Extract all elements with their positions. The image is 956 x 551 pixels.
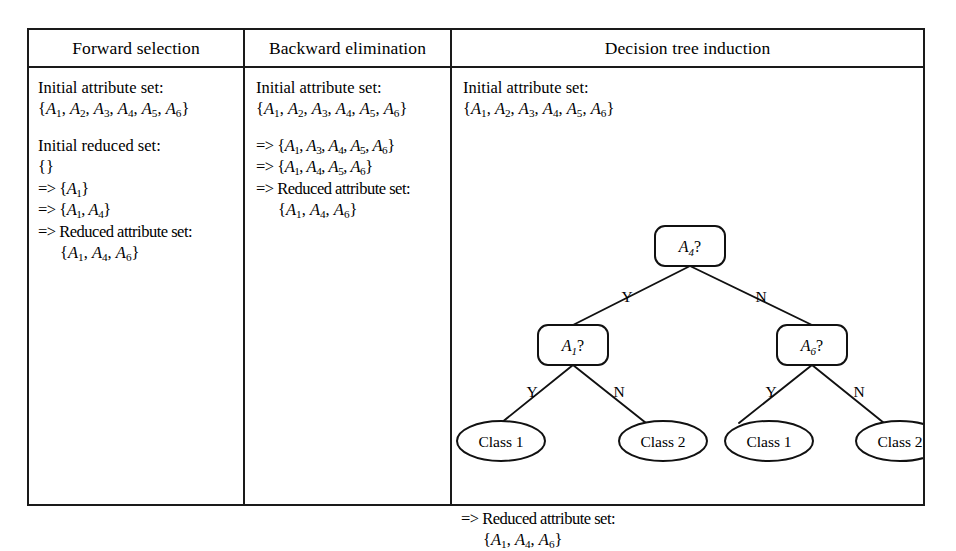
attribute-set-line: {A1, A4, A6} — [38, 242, 243, 263]
text-line: Initial attribute set: — [256, 77, 450, 98]
text-line: Initial attribute set: — [463, 77, 923, 98]
cell-forward-selection: Initial attribute set:{A1, A2, A3, A4, A… — [29, 68, 243, 504]
column-header-label: Forward selection — [72, 38, 200, 59]
text-line: Initial reduced set: — [38, 135, 243, 156]
table-header-row: Forward selection Backward elimination D… — [29, 30, 923, 68]
attribute-set-line: {A1, A4, A6} — [256, 199, 450, 220]
attribute-set-line: {A1, A2, A3, A4, A5, A6} — [38, 98, 243, 119]
step-line: => {A1, A4} — [38, 199, 243, 220]
attribute-set-line: {A1, A4, A6} — [461, 529, 615, 550]
step-line: => Reduced attribute set: — [256, 178, 450, 199]
table-body-row: Initial attribute set:{A1, A2, A3, A4, A… — [29, 68, 923, 504]
attribute-set-line: {} — [38, 156, 243, 177]
cell-decision-tree-induction: Initial attribute set:{A1, A2, A3, A4, A… — [450, 68, 923, 504]
column-header-backward-elimination: Backward elimination — [243, 30, 450, 66]
comparison-table: Forward selection Backward elimination D… — [27, 28, 925, 506]
step-line: => {A1, A4, A5, A6} — [256, 156, 450, 177]
step-line: => Reduced attribute set: — [38, 221, 243, 242]
attribute-set-line: {A1, A2, A3, A4, A5, A6} — [256, 98, 450, 119]
step-line: => Reduced attribute set: — [461, 508, 615, 529]
step-line: => {A1, A3, A4, A5, A6} — [256, 135, 450, 156]
column-header-label: Backward elimination — [269, 38, 426, 59]
step-line: => {A1} — [38, 178, 243, 199]
reduced-attribute-summary: => Reduced attribute set:{A1, A4, A6} — [461, 508, 615, 551]
text-spacer — [256, 120, 450, 135]
column-header-label: Decision tree induction — [605, 38, 771, 59]
column-header-decision-tree-induction: Decision tree induction — [450, 30, 923, 66]
text-spacer — [38, 120, 243, 135]
column-header-forward-selection: Forward selection — [29, 30, 243, 66]
attribute-set-line: {A1, A2, A3, A4, A5, A6} — [463, 98, 923, 119]
cell-backward-elimination: Initial attribute set:{A1, A2, A3, A4, A… — [243, 68, 450, 504]
text-line: Initial attribute set: — [38, 77, 243, 98]
